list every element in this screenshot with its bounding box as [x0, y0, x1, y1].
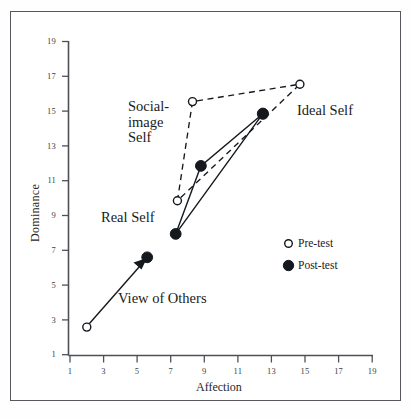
legend-marker-post-test — [283, 260, 293, 270]
x-tick-label-17: 17 — [329, 366, 349, 376]
marker-post-real-self — [170, 229, 181, 240]
y-axis-title: Dominance — [28, 184, 43, 242]
annotation-view-of-others: View of Others — [118, 291, 207, 307]
y-tick-label-7: 7 — [38, 245, 56, 255]
y-tick-label-1: 1 — [38, 349, 56, 359]
marker-post-view-of-others — [142, 252, 153, 263]
legend-label-post-test: Post-test — [298, 259, 338, 271]
x-tick-label-9: 9 — [194, 366, 214, 376]
y-axis-ticks — [62, 42, 69, 355]
x-axis-ticks — [70, 356, 372, 363]
y-tick-label-19: 19 — [38, 36, 56, 46]
y-tick-label-3: 3 — [38, 315, 56, 325]
y-tick-label-15: 15 — [38, 106, 56, 116]
annotation-social-image-self-line2: image — [128, 114, 163, 130]
annotation-real-self: Real Self — [101, 210, 155, 226]
x-tick-label-13: 13 — [261, 366, 281, 376]
x-tick-label-7: 7 — [161, 366, 181, 376]
x-tick-label-3: 3 — [94, 366, 114, 376]
chart-canvas — [0, 0, 413, 419]
marker-pre-real-self — [173, 197, 181, 205]
legend-label-pre-test: Pre-test — [298, 237, 333, 249]
annotation-social-image-self-line1: Social- — [128, 98, 169, 114]
marker-pre-social-image-self — [189, 98, 197, 106]
marker-post-social-image-self — [196, 161, 207, 172]
x-axis-title: Affection — [196, 380, 242, 395]
y-tick-label-5: 5 — [38, 280, 56, 290]
marker-pre-view-of-others — [83, 323, 91, 331]
x-tick-label-1: 1 — [60, 366, 80, 376]
x-tick-label-11: 11 — [228, 366, 248, 376]
x-tick-label-15: 15 — [295, 366, 315, 376]
x-tick-label-19: 19 — [362, 366, 382, 376]
marker-post-ideal-self — [257, 108, 268, 119]
annotation-ideal-self: Ideal Self — [297, 103, 353, 119]
y-tick-label-13: 13 — [38, 141, 56, 151]
x-tick-label-5: 5 — [127, 366, 147, 376]
marker-pre-ideal-self — [296, 80, 304, 88]
legend-markers — [283, 240, 293, 271]
figure-container: 19 17 15 13 11 9 7 5 3 1 1 3 5 7 9 11 13… — [0, 0, 413, 419]
post-test-polyline — [176, 114, 263, 234]
annotation-social-image-self-line3: Self — [128, 129, 151, 145]
legend-marker-pre-test — [285, 240, 293, 248]
annotation-social-image-self: Social-imageSelf — [128, 99, 169, 146]
y-tick-label-17: 17 — [38, 71, 56, 81]
